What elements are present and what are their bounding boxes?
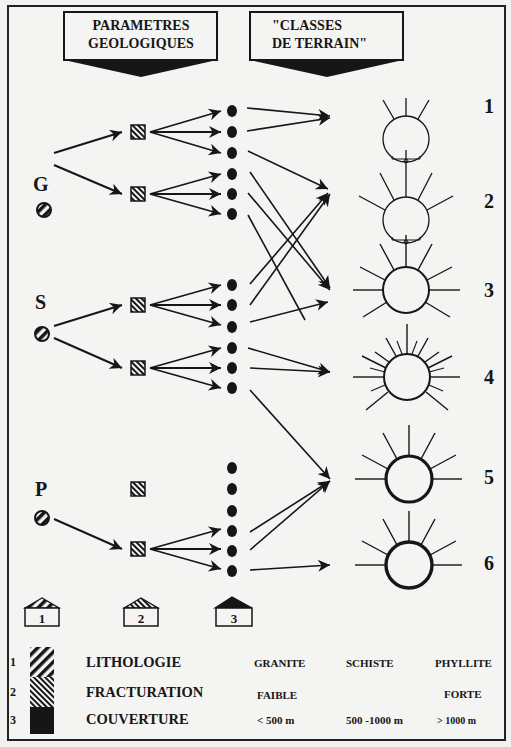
legend-num: 1 (10, 655, 16, 669)
header-classes-de-terrain: "CLASSES DE TERRAIN" (250, 12, 403, 77)
legend-forte: FORTE (444, 688, 482, 700)
house-label: 2 (138, 611, 145, 626)
terrain-class-3: 3 (353, 235, 494, 317)
rock-label-p: P (35, 478, 47, 500)
legend-500-1000: 500 -1000 m (346, 714, 403, 726)
parameter-house-2: 2 (124, 598, 158, 626)
terrain-class-2: 2 (359, 150, 494, 244)
legend-num: 3 (10, 713, 16, 727)
fracturation-square-icon (131, 125, 145, 139)
legend-granite: GRANITE (254, 657, 305, 669)
header-left-line2: GEOLOGIQUES (88, 36, 194, 51)
lithology-disc-icon (35, 511, 49, 525)
tunnel-section-icon (355, 425, 462, 502)
tunnel-section-icon (353, 235, 460, 317)
terrain-class-6: 6 (355, 511, 494, 588)
legend-phyllite: PHYLLITE (435, 657, 492, 669)
legend-lithologie: LITHOLOGIE (86, 654, 181, 670)
tunnel-section-icon (355, 511, 462, 588)
legend-couverture: COUVERTURE (86, 711, 189, 727)
legend-schiste: SCHISTE (346, 657, 394, 669)
class-number: 5 (484, 466, 494, 488)
legend-under-500: < 500 m (257, 714, 294, 726)
class-number: 2 (484, 190, 494, 212)
terrain-class-5: 5 (355, 425, 494, 502)
rock-type-p: P (35, 478, 49, 525)
header-right-line1: "CLASSES (272, 18, 342, 33)
coverage-nodes (227, 105, 237, 577)
parameter-house-3: 3 (215, 597, 252, 626)
fracturation-arrows (150, 111, 221, 569)
fracturation-square-icon (131, 361, 145, 375)
header-right-line2: DE TERRAIN" (272, 36, 367, 51)
terrain-class-1: 1 (383, 95, 494, 163)
terrain-class-4: 4 (353, 324, 494, 410)
fracturation-square-icon (131, 298, 145, 312)
fracturation-square-icon (131, 542, 145, 556)
header-parametres-geologiques: PARAMETRES GEOLOGIQUES (64, 12, 217, 77)
tunnel-section-icon (359, 150, 453, 244)
legend-faible: FAIBLE (257, 689, 297, 701)
tunnel-section-icon (353, 324, 460, 410)
lithology-disc-icon (37, 203, 51, 217)
legend-over-1000: > 1000 m (437, 715, 477, 726)
lithology-disc-icon (35, 327, 49, 341)
fracturation-square-icon (131, 482, 145, 496)
rock-label-g: G (33, 173, 49, 195)
legend-num: 2 (10, 685, 16, 699)
house-label: 3 (231, 611, 238, 626)
fracturation-nodes (131, 125, 145, 556)
legend: 1 2 3 LITHOLOGIE FRACTURATION COUVERTURE… (10, 647, 492, 734)
header-left-line1: PARAMETRES (93, 18, 190, 33)
house-label: 1 (39, 611, 46, 626)
geology-terrain-diagram: PARAMETRES GEOLOGIQUES "CLASSES DE TERRA… (0, 0, 511, 747)
rock-type-s: S (35, 291, 49, 341)
class-number: 1 (484, 95, 494, 117)
legend-fracturation: FRACTURATION (86, 684, 204, 700)
legend-swatch-column (30, 647, 54, 734)
fracturation-square-icon (131, 187, 145, 201)
classification-arrows (247, 108, 330, 570)
class-number: 4 (484, 366, 494, 388)
class-number: 6 (484, 552, 494, 574)
rock-type-g: G (33, 173, 51, 217)
lithology-arrows (54, 132, 122, 549)
parameter-house-1: 1 (25, 598, 59, 626)
rock-label-s: S (35, 291, 46, 313)
class-number: 3 (484, 279, 494, 301)
